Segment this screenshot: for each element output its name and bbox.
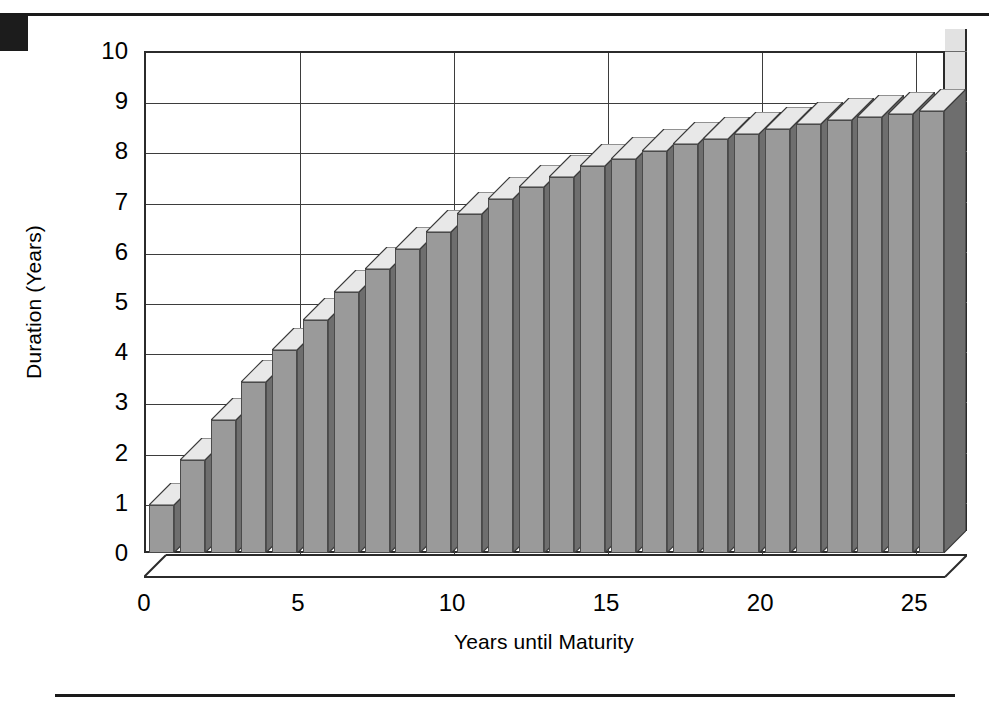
bar-front-face [796,124,821,553]
bar-front-face [673,144,698,553]
bar-front-face [642,151,667,553]
plot-area [144,51,945,553]
bar-front-face [919,111,944,553]
x-axis-tick-label: 10 [422,591,482,615]
bar-front-face [857,117,882,553]
bar-front-face [611,159,636,553]
bar-front-face [457,214,482,553]
bar-front-face [149,505,174,553]
bar-series [144,51,967,577]
bar-front-face [334,292,359,553]
bar-front-face [365,269,390,553]
bar-column [919,89,966,553]
bar-front-face [488,199,513,553]
bar-front-face [241,382,266,553]
bottom-divider-rule [55,694,955,697]
bar-front-face [180,460,205,553]
bar-front-face [827,120,852,553]
bar-front-face [580,166,605,553]
bar-front-face [765,129,790,553]
bar-front-face [703,139,728,553]
x-axis-title: Years until Maturity [144,630,944,654]
bar-front-face [303,320,328,553]
bar-front-face [888,114,913,553]
bar-front-face [734,134,759,553]
x-axis-tick-label: 5 [268,591,328,615]
bar-front-face [272,350,297,553]
bar-front-face [211,420,236,553]
bar-front-face [426,232,451,553]
bar-front-face [395,249,420,553]
bar-front-face [519,187,544,553]
x-axis-tick-label: 0 [114,591,174,615]
x-axis-tick-label: 25 [884,591,944,615]
x-axis-tick-label: 15 [576,591,636,615]
chart-page: Duration (Years) 012345678910 0510152025… [0,0,989,725]
chart-figure: Duration (Years) 012345678910 0510152025… [0,16,989,676]
x-axis-tick-label: 20 [730,591,790,615]
bar-side-face [944,89,966,553]
bar-top-face [919,89,966,113]
bar-front-face [549,177,574,554]
